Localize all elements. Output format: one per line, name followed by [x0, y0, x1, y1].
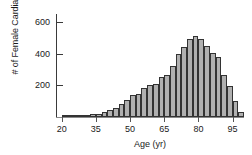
x-axis-title: Age (yr) — [56, 139, 244, 149]
x-tick-label: 80 — [193, 124, 203, 134]
x-tick-label: 20 — [57, 124, 67, 134]
histogram-bars — [56, 14, 244, 118]
y-tick-label: 400 — [35, 49, 50, 59]
y-tick-label: 600 — [35, 17, 50, 27]
histogram-bar — [238, 112, 244, 117]
x-tick-label: 95 — [228, 124, 238, 134]
plot-area: 200400600 203550658095 Age (yr) — [56, 14, 244, 118]
x-tick-label: 50 — [125, 124, 135, 134]
x-tick-label: 35 — [91, 124, 101, 134]
x-tick-label: 65 — [159, 124, 169, 134]
y-axis-title: # of Female Cardiac Patients — [8, 0, 22, 75]
y-tick-label: 200 — [35, 80, 50, 90]
histogram-figure: # of Female Cardiac Patients 200400600 2… — [0, 0, 252, 155]
